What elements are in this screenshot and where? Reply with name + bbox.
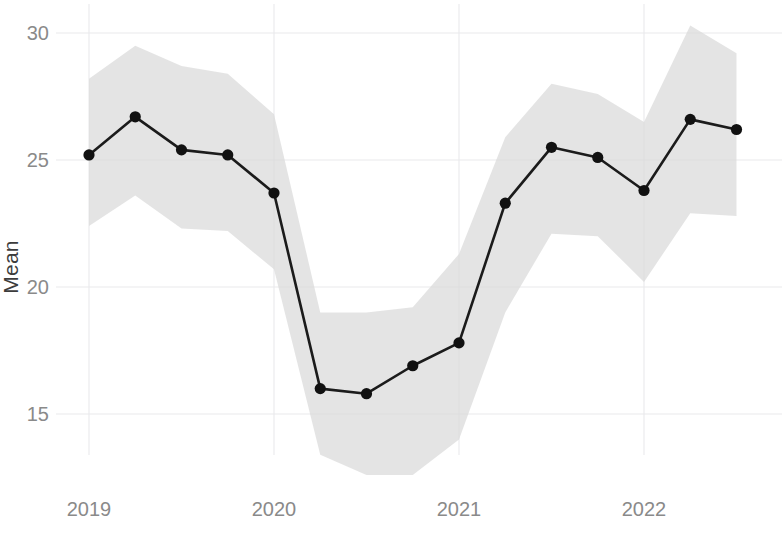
chart-container: 15202530 2019202020212022 Mean xyxy=(0,0,784,534)
svg-text:30: 30 xyxy=(27,22,49,44)
x-tick-labels: 2019202020212022 xyxy=(67,498,667,520)
confidence-band xyxy=(89,25,737,475)
y-tick-labels: 15202530 xyxy=(27,22,49,425)
svg-text:15: 15 xyxy=(27,403,49,425)
svg-text:2020: 2020 xyxy=(252,498,297,520)
svg-text:2022: 2022 xyxy=(622,498,667,520)
line-chart-plot: 15202530 2019202020212022 xyxy=(0,0,784,534)
svg-text:25: 25 xyxy=(27,149,49,171)
svg-text:20: 20 xyxy=(27,276,49,298)
svg-text:2019: 2019 xyxy=(67,498,112,520)
svg-text:2021: 2021 xyxy=(437,498,482,520)
